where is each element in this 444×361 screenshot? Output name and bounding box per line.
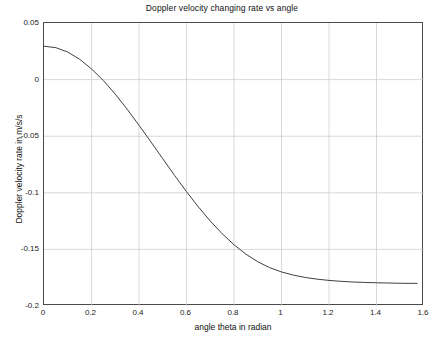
- x-tick-label: 1: [278, 308, 282, 317]
- y-tick-label: 0: [0, 74, 39, 83]
- x-tick-label: 0.4: [132, 308, 143, 317]
- x-tick-label: 0: [41, 308, 45, 317]
- chart-title: Doppler velocity changing rate vs angle: [0, 3, 444, 13]
- plot-canvas: [44, 23, 424, 306]
- y-axis-label: Doppler velocity rate in m/s/s: [14, 89, 24, 249]
- chart-figure: Doppler velocity changing rate vs angle …: [0, 0, 444, 361]
- data-series-group: [44, 46, 417, 283]
- x-tick-label: 1.4: [370, 308, 381, 317]
- y-tick-label: 0.05: [0, 18, 39, 27]
- x-tick-label: 1.2: [322, 308, 333, 317]
- plot-area: [43, 22, 423, 305]
- x-axis-label: angle theta in radian: [43, 322, 423, 332]
- grid-lines: [44, 23, 424, 306]
- x-tick-label: 0.8: [227, 308, 238, 317]
- x-tick-label: 0.2: [85, 308, 96, 317]
- data-series-line: [44, 46, 417, 283]
- y-tick-label: -0.2: [0, 301, 39, 310]
- x-tick-label: 0.6: [180, 308, 191, 317]
- x-tick-label: 1.6: [417, 308, 428, 317]
